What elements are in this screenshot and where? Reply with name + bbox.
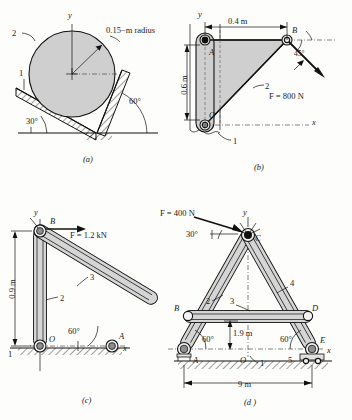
panel-d-node-e: E (319, 335, 326, 345)
panel-a-body-label: 2 (12, 28, 16, 38)
panel-a-ground-label: 1 (19, 68, 23, 78)
leader-link2 (46, 297, 58, 300)
panel-b-dim-vertical: 0.6 m (179, 75, 189, 95)
panel-d-link-1: 1 (260, 358, 264, 368)
leader-link2 (253, 85, 264, 88)
panel-c-axis-y: y (33, 207, 38, 217)
panel-a-angle-left: 30° (26, 116, 38, 126)
panel-b-dim-horizontal: 0.4 m (228, 16, 248, 26)
panel-c-node-a: A (118, 331, 125, 341)
leader-radius (110, 36, 120, 42)
leader-ground1 (218, 133, 231, 140)
panel-b-caption: (b) (254, 162, 264, 172)
panel-b-node-o: O (209, 110, 215, 120)
panel-c-ground-label: 1 (8, 349, 12, 359)
panel-d-dim-height: 1.9 m (233, 328, 253, 338)
panel-b-node-a: A (208, 47, 215, 57)
panel-c-angle: 60° (68, 326, 80, 336)
panel-d-axis-x: x (326, 345, 331, 355)
panel-c-link-3: 3 (90, 272, 94, 282)
panel-b-node-b: B (292, 25, 297, 35)
panel-d-link-5: 5 (288, 355, 292, 365)
panel-b-force: F = 800 N (269, 91, 304, 101)
panel-c-dim-vertical: 0.9 m (7, 279, 17, 299)
panel-d-link-4: 4 (290, 278, 295, 288)
leader-y (30, 218, 38, 228)
panel-a: y 2 1 0.15−m radius 30° 60° (a) (0, 0, 176, 205)
link-2-bar (34, 229, 47, 347)
force-arrow (289, 40, 325, 78)
panel-b-link-label: 2 (265, 81, 269, 91)
panel-b-angle: 45° (294, 49, 305, 58)
panel-d-angle-left: 60° (202, 334, 214, 344)
panel-a-caption: (a) (83, 154, 93, 164)
panel-d-node-b: B (174, 303, 179, 313)
panel-d-dim-span: 9 m (238, 379, 251, 389)
link-3-bar (184, 311, 312, 323)
panel-c-axis-x: x (122, 343, 127, 353)
panel-d-node-c: C (255, 233, 261, 243)
leader-link3 (77, 277, 88, 286)
panel-d-link-3: 3 (230, 296, 234, 306)
panel-d-force-angle: 30° (186, 229, 198, 239)
panel-d-caption: (d ) (244, 397, 256, 407)
support-fixed (177, 354, 191, 361)
force-arrow (194, 217, 244, 239)
panel-a-axis-y: y (67, 10, 72, 20)
panel-d-node-a: A (192, 355, 199, 365)
panel-d: y x F = 400 N 30° C B D E A O 1 2 3 4 5 … (160, 205, 352, 420)
panel-c-node-b: B (50, 216, 55, 226)
panel-c-node-o: O (49, 334, 55, 344)
panel-c-caption: (c) (82, 395, 92, 405)
figure-sheet: y 2 1 0.15−m radius 30° 60° (a) (0, 0, 352, 420)
panel-a-radius-label: 0.15−m radius (106, 25, 155, 35)
panel-c-force: F = 1.2 kN (70, 230, 107, 240)
panel-d-axis-y: y (242, 207, 247, 217)
panel-d-force: F = 400 N (160, 208, 195, 218)
panel-b-ground-label: 1 (233, 136, 237, 146)
panel-b-axis-x: x (311, 117, 316, 127)
panel-c: y x B O A 0.9 m 2 3 1 60° F = 1.2 kN (c) (0, 205, 176, 420)
panel-b-axis-y: y (197, 9, 202, 19)
panel-d-link-2: 2 (206, 296, 210, 306)
panel-d-node-o: O (240, 355, 246, 365)
panel-c-link-2: 2 (60, 293, 64, 303)
panel-d-node-d: D (311, 303, 319, 313)
panel-a-angle-right: 60° (129, 96, 141, 106)
panel-b: y x 0.4 m 0.6 m A B O 2 1 45° F = 800 N … (176, 0, 352, 205)
leader-b (306, 31, 312, 40)
panel-d-angle-right: 60° (280, 334, 292, 344)
leader-body (22, 33, 35, 41)
